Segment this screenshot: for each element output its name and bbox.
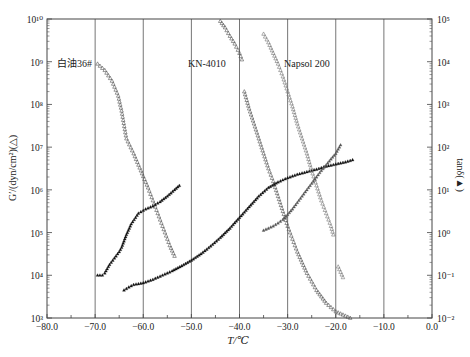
y-right-tick-label: 10⁻² xyxy=(437,314,455,324)
x-tick-label: −60.0 xyxy=(132,322,154,332)
y-right-tick-label: 10⁻¹ xyxy=(437,271,455,281)
annotation-kn4010: KN-4010 xyxy=(188,58,226,69)
y-left-tick-label: 10⁴ xyxy=(30,271,44,281)
x-tick-label: −40.0 xyxy=(229,322,251,332)
y-left-tick-label: 10⁶ xyxy=(30,186,43,196)
x-tick-label: −20.0 xyxy=(325,322,347,332)
x-axis-title: T/℃ xyxy=(227,334,249,346)
annotation-napsol: Napsol 200 xyxy=(284,58,330,69)
chart-svg: −80.0−70.0−60.0−50.0−40.0−30.0−20.0−10.0… xyxy=(0,0,470,357)
series-kn-4010-tan- xyxy=(123,158,354,291)
x-tick-label: −10.0 xyxy=(373,322,395,332)
series--36-g- xyxy=(96,62,177,258)
y-axis-left-title: G′/(dyn/cm²)(△) xyxy=(7,135,19,201)
y-right-tick-label: 10¹ xyxy=(437,186,450,196)
annotation-baiyou: 白油36# xyxy=(57,57,92,69)
y-left-tick-label: 10⁹ xyxy=(30,58,44,68)
chart-container: −80.0−70.0−60.0−50.0−40.0−30.0−20.0−10.0… xyxy=(0,0,470,357)
y-left-tick-label: 10³ xyxy=(31,314,44,324)
x-tick-label: −50.0 xyxy=(180,322,202,332)
y-right-tick-label: 10² xyxy=(437,143,450,153)
y-right-tick-label: 10⁵ xyxy=(437,15,450,25)
y-left-tick-label: 10⁵ xyxy=(30,229,43,239)
series--36-tan- xyxy=(96,184,181,276)
y-left-tick-label: 10⁷ xyxy=(30,143,43,153)
y-right-tick-label: 10⁴ xyxy=(437,58,451,68)
y-left-tick-label: 10⁸ xyxy=(30,100,43,110)
y-axis-right-title: tanδ(▲) xyxy=(454,158,466,192)
y-left-tick-label: 10¹⁰ xyxy=(27,15,43,25)
x-tick-label: −30.0 xyxy=(277,322,299,332)
y-right-tick-label: 10⁰ xyxy=(437,229,451,239)
x-tick-label: −70.0 xyxy=(84,322,106,332)
y-right-tick-label: 10³ xyxy=(437,100,450,110)
